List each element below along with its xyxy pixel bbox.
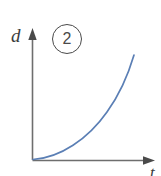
plot-area xyxy=(0,0,161,176)
step-number-badge: 2 xyxy=(52,24,82,54)
x-axis-label: t xyxy=(150,164,155,176)
distance-time-figure: d t 2 xyxy=(0,0,161,176)
distance-curve xyxy=(33,55,134,160)
y-axis-arrowhead xyxy=(28,28,36,40)
y-axis-label: d xyxy=(11,26,21,45)
